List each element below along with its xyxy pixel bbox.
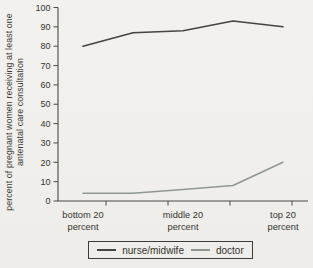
x-axis-label: top 20 [270,210,296,220]
y-tick-label: 20 [40,158,50,168]
x-axis-label: middle 20 [163,210,203,220]
y-tick-label: 50 [40,99,50,109]
axes [58,8,308,202]
legend-item-doctor: doctor [191,245,244,256]
x-axis-label: percent [167,222,198,232]
x-axis-label: percent [267,222,298,232]
chart-figure: percent of pregnant women receiving at l… [0,0,313,268]
legend-label-nurse-midwife: nurse/midwife [122,245,184,256]
y-tick-label: 90 [40,22,50,32]
y-tick-label: 10 [40,177,50,187]
legend-label-doctor: doctor [216,245,244,256]
y-tick-label: 60 [40,80,50,90]
x-axis-label: bottom 20 [62,210,103,220]
y-tick-label: 0 [45,196,50,206]
y-tick-label: 30 [40,138,50,148]
doctor-line-swatch-icon [191,249,210,251]
y-tick-label: 70 [40,61,50,71]
series-line-nurse-midwife [83,21,283,46]
line-chart-plot-area: 0102030405060708090100bottom 20percentmi… [0,0,313,268]
nurse-midwife-line-swatch-icon [97,249,116,251]
y-tick-label: 80 [40,41,50,51]
y-axis-label: percent of pregnant women receiving at l… [4,7,28,217]
y-tick-label: 100 [35,3,50,13]
y-tick-label: 40 [40,119,50,129]
x-axis-label: percent [67,222,98,232]
series-line-doctor [83,162,283,193]
legend-box: nurse/midwife doctor [88,241,253,259]
legend-item-nurse-midwife: nurse/midwife [97,245,184,256]
